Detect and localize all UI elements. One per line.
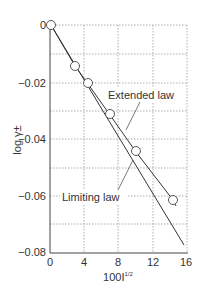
y-tick-4: −0.08 [18, 246, 46, 258]
x-tick-4: 16 [180, 256, 192, 268]
limiting-law-pointer [118, 160, 133, 190]
y-axis-label: log γ± [11, 125, 23, 154]
y-tick-1: −0.02 [18, 77, 46, 89]
x-tick-2: 8 [115, 256, 121, 268]
x-axis-label: 100I1/2 [103, 271, 133, 283]
data-point [84, 79, 93, 88]
chart: 0 −0.02 −0.04 −0.06 −0.08 0 4 8 12 16 10… [0, 0, 200, 293]
x-tick-1: 4 [81, 256, 87, 268]
x-tick-0: 0 [47, 256, 53, 268]
data-point [71, 62, 80, 71]
limiting-law-line [51, 25, 184, 245]
extended-law-label: Extended law [108, 89, 174, 101]
data-point [132, 147, 141, 156]
data-point [47, 21, 56, 30]
y-tick-3: −0.06 [18, 190, 46, 202]
x-tick-3: 12 [147, 256, 159, 268]
data-point [169, 196, 178, 205]
x-tick-labels: 0 4 8 12 16 [47, 256, 192, 268]
data-point [106, 110, 115, 119]
y-tick-0: 0 [40, 19, 46, 31]
limiting-law-label: Limiting law [62, 191, 120, 203]
data-points [47, 21, 178, 205]
extended-law-pointer [126, 102, 140, 130]
